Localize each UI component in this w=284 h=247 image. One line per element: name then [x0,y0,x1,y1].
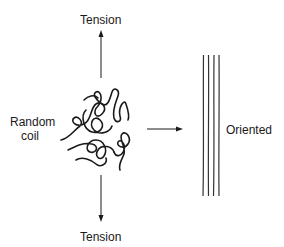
diagram-graphics [0,0,284,247]
arrow-down-icon [99,175,104,222]
polymer-orientation-diagram: Tension Tension Random coil Oriented [0,0,284,247]
arrow-right-icon [147,127,183,132]
random-coil-icon [61,89,129,170]
arrow-up-icon [99,30,104,78]
oriented-chains-icon [203,55,219,196]
